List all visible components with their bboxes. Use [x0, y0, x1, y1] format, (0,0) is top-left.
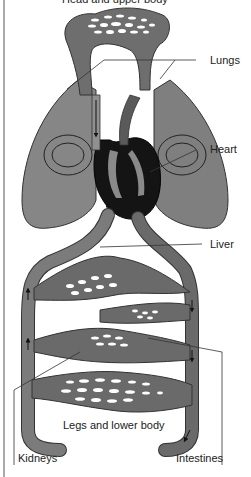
label-legs-lower-body: Legs and lower body [63, 419, 165, 431]
legs-capillary-bed [32, 371, 192, 412]
heart-illustration [92, 95, 160, 230]
label-kidneys: Kidneys [18, 452, 57, 464]
label-head-upper-body: Head and upper body [62, 0, 168, 5]
label-intestines: Intestines [176, 452, 223, 464]
kidneys-capillary-bed [34, 328, 190, 363]
label-lungs: Lungs [210, 54, 240, 66]
intestines-capillary-bed [100, 303, 190, 323]
label-liver: Liver [210, 238, 234, 250]
head-capillary-bed [65, 8, 170, 95]
label-heart: Heart [210, 143, 237, 155]
